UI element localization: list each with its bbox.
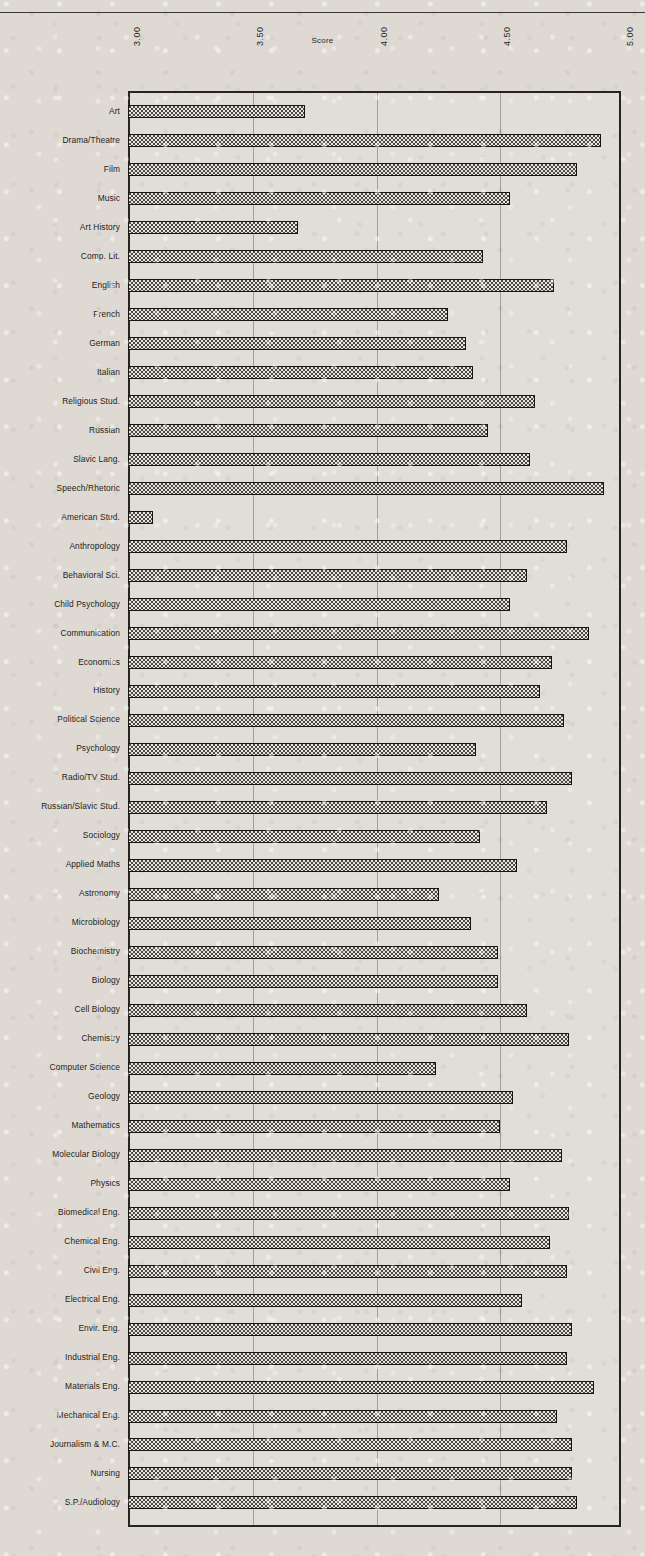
category-label: Sociology: [83, 830, 120, 840]
category-label: Art: [109, 106, 120, 116]
bar: [128, 598, 510, 611]
category-label: Italian: [97, 367, 120, 377]
bar: [128, 1149, 562, 1162]
category-label: Astronomy: [79, 888, 120, 898]
x-tick-label-3.50: 3.50: [255, 26, 265, 46]
category-label: Electrical Eng.: [65, 1294, 120, 1304]
bar: [128, 511, 153, 524]
category-label: Physics: [90, 1178, 120, 1188]
category-label: Mechanical Eng.: [57, 1410, 120, 1420]
category-label: Communication: [61, 628, 120, 638]
category-label: German: [89, 338, 120, 348]
bar: [128, 946, 498, 959]
bar: [128, 424, 488, 437]
category-label: Anthropology: [69, 541, 120, 551]
bars-layer: [128, 91, 621, 1527]
category-label: Music: [98, 193, 120, 203]
category-label: Russian: [89, 425, 120, 435]
bar: [128, 1091, 513, 1104]
x-tick-label-4.00: 4.00: [379, 26, 389, 46]
bar: [128, 714, 564, 727]
bar: [128, 1265, 567, 1278]
bar: [128, 859, 517, 872]
category-label: Drama/Theatre: [62, 135, 120, 145]
category-label: Biology: [92, 975, 120, 985]
category-label-column: ArtDrama/TheatreFilmMusicArt HistoryComp…: [0, 91, 124, 1527]
bar: [128, 1062, 436, 1075]
bar: [128, 1294, 522, 1307]
bar: [128, 337, 466, 350]
axis-title-score: Score: [0, 36, 645, 45]
bar: [128, 569, 527, 582]
category-label: Envir. Eng.: [78, 1323, 120, 1333]
bar: [128, 975, 498, 988]
category-label: Art History: [80, 222, 120, 232]
bar: [128, 453, 530, 466]
category-label: Computer Science: [50, 1062, 121, 1072]
category-label: Biomedical Eng.: [58, 1207, 120, 1217]
bar: [128, 366, 473, 379]
category-label: Film: [104, 164, 120, 174]
category-label: Radio/TV Stud.: [62, 772, 120, 782]
bar: [128, 279, 554, 292]
category-label: Molecular Biology: [52, 1149, 120, 1159]
bar: [128, 830, 480, 843]
category-label: Child Psychology: [54, 599, 120, 609]
category-label: Industrial Eng.: [65, 1352, 120, 1362]
bar: [128, 1236, 550, 1249]
category-label: Biochemistry: [71, 946, 120, 956]
bar: [128, 1352, 567, 1365]
bar: [128, 105, 305, 118]
category-label: Russian/Slavic Stud.: [41, 801, 120, 811]
bar: [128, 772, 572, 785]
bar: [128, 1207, 569, 1220]
bar: [128, 540, 567, 553]
category-label: History: [93, 685, 120, 695]
bar: [128, 308, 448, 321]
category-label: American Stud.: [61, 512, 120, 522]
category-label: Cell Biology: [75, 1004, 120, 1014]
bar: [128, 888, 439, 901]
bar: [128, 1496, 577, 1509]
bar: [128, 221, 298, 234]
category-label: Speech/Rhetoric: [57, 483, 120, 493]
bar: [128, 685, 540, 698]
category-label: Journalism & M.C.: [50, 1439, 120, 1449]
category-label: S.P./Audiology: [65, 1497, 120, 1507]
category-label: Geology: [88, 1091, 120, 1101]
category-label: Political Science: [57, 714, 120, 724]
bar: [128, 192, 510, 205]
category-label: Nursing: [90, 1468, 120, 1478]
x-tick-label-4.50: 4.50: [502, 26, 512, 46]
bar: [128, 1381, 594, 1394]
bar: [128, 1467, 572, 1480]
bar: [128, 1178, 510, 1191]
category-label: Materials Eng.: [65, 1381, 120, 1391]
bar: [128, 395, 535, 408]
bar: [128, 482, 604, 495]
bar: [128, 801, 547, 814]
bar: [128, 1120, 500, 1133]
category-label: Psychology: [76, 743, 120, 753]
category-label: Comp. Lit.: [81, 251, 120, 261]
bar: [128, 656, 552, 669]
category-label: Chemistry: [81, 1033, 120, 1043]
category-label: Economics: [78, 657, 120, 667]
bar: [128, 627, 589, 640]
bar: [128, 163, 577, 176]
category-label: Slavic Lang.: [73, 454, 120, 464]
bar: [128, 1438, 572, 1451]
bar: [128, 250, 483, 263]
category-label: Religious Stud.: [62, 396, 120, 406]
category-label: Civil Eng.: [84, 1265, 120, 1275]
category-label: Applied Maths: [66, 859, 120, 869]
bar: [128, 1033, 569, 1046]
bar: [128, 134, 601, 147]
category-label: Behavioral Sci.: [63, 570, 120, 580]
category-label: Microbiology: [72, 917, 120, 927]
category-label: English: [92, 280, 120, 290]
bar: [128, 917, 471, 930]
x-tick-label-3.00: 3.00: [132, 26, 142, 46]
bar: [128, 743, 476, 756]
category-label: Mathematics: [71, 1120, 120, 1130]
